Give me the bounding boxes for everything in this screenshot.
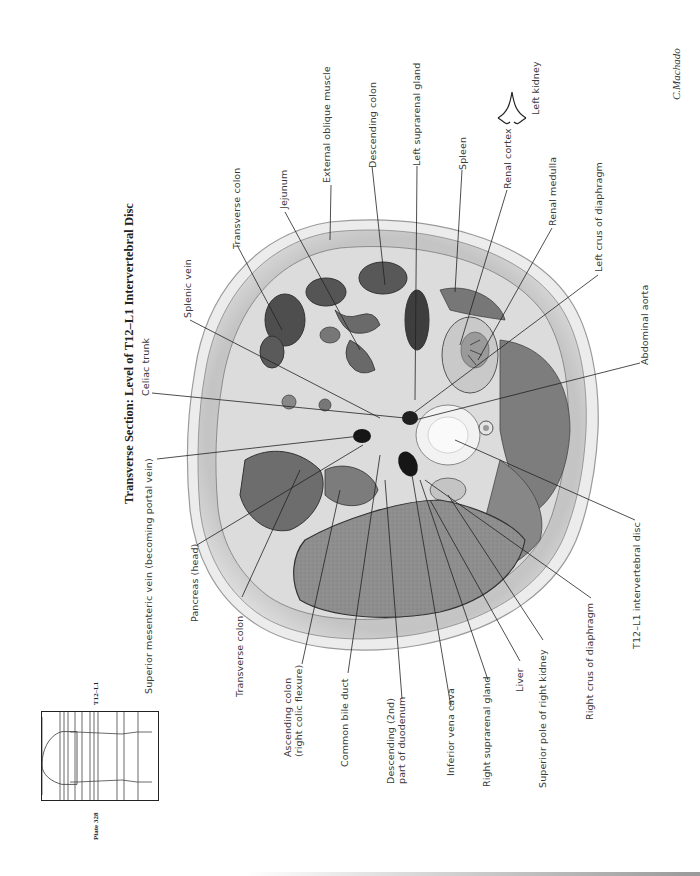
label-left-crus-of-diaphragm: Left crus of diaphragm [594,162,604,272]
label-right-crus-of-diaphragm: Right crus of diaphragm [585,603,595,720]
level-locator-thumbnail [41,711,159,801]
left-kidney [442,317,498,393]
label-spleen: Spleen [458,137,468,170]
label-right-suprarenal-gland: Right suprarenal gland [482,676,492,787]
label-ascending-colon: Ascending colon (right colic flexure) [283,665,305,757]
label-superior-mesenteric-vein: Superior mesenteric vein (becoming porta… [144,458,154,694]
label-left-kidney: Left kidney [531,61,541,115]
artist-signature: C.Machado [670,48,682,100]
plate-number: Plate 328 [92,813,100,840]
label-renal-medulla: Renal medulla [548,157,558,226]
label-external-oblique-muscle: External oblique muscle [322,66,332,183]
label-pancreas-head: Pancreas (head) [190,544,200,622]
left-kidney-bracket [500,116,520,120]
label-jejunum: Jejunum [279,170,289,209]
label-common-bile-duct: Common bile duct [340,678,350,767]
superior-mesenteric-vein [353,429,371,443]
label-celiac-trunk: Celiac trunk [141,338,151,396]
label-inferior-vena-cava: Inferior vena cava [446,688,456,776]
label-liver: Liver [515,668,525,692]
left-kidney-brace-curly [498,92,526,124]
page-title: Transverse Section: Level of T12–L1 Inte… [122,203,137,504]
page-edge [0,872,700,876]
label-t12-l1-intervertebral-disc: T12–L1 intervertebral disc [632,522,642,649]
label-abdominal-aorta: Abdominal aorta [640,285,650,365]
label-descending-colon: Descending colon [368,82,378,168]
right-kidney-pole [430,478,466,502]
label-transverse-colon-top: Transverse colon [232,168,242,249]
label-splenic-vein: Splenic vein [183,259,193,318]
label-transverse-colon-bottom: Transverse colon [235,616,245,697]
label-renal-cortex: Renal cortex [503,128,513,189]
level-indicator: T12–L1 [92,682,100,705]
label-left-suprarenal-gland: Left suprarenal gland [412,63,422,166]
label-superior-pole-right-kidney: Superior pole of right kidney [538,649,548,788]
label-descending-duodenum: Descending (2nd) part of duodenum [386,697,408,784]
spine-diagram-icon [42,712,158,800]
